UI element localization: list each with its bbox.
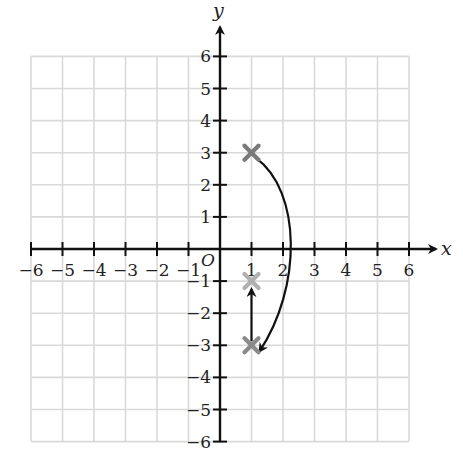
x-axis-label: x — [441, 237, 452, 259]
y-tick-label: 2 — [200, 175, 211, 195]
y-tick-label: −1 — [186, 271, 211, 291]
x-tick-label: 2 — [278, 260, 289, 280]
y-tick-label: −5 — [186, 400, 211, 420]
x-tick-label: −3 — [113, 260, 138, 280]
y-tick-label: −2 — [186, 303, 211, 323]
x-tick-label: −2 — [144, 260, 169, 280]
rotation-arc-arrow — [256, 158, 291, 352]
y-tick-label: −3 — [186, 335, 211, 355]
y-tick-label: 3 — [200, 143, 211, 163]
coordinate-plane: −6−5−4−3−2−1123456654321−1−2−3−4−5−6 x y… — [0, 0, 463, 462]
y-tick-label: 6 — [200, 46, 211, 66]
x-tick-label: 6 — [404, 260, 415, 280]
x-tick-label: 4 — [341, 260, 352, 280]
y-tick-label: 1 — [200, 207, 211, 227]
x-tick-label: −5 — [50, 260, 75, 280]
y-tick-label: 4 — [200, 111, 211, 131]
x-tick-label: −4 — [81, 260, 106, 280]
x-tick-label: 5 — [372, 260, 383, 280]
y-tick-label: −4 — [186, 367, 211, 387]
x-tick-label: 3 — [309, 260, 320, 280]
y-axis-label: y — [212, 0, 224, 21]
origin-label: O — [201, 250, 215, 270]
transformation-arrows — [252, 158, 291, 352]
x-tick-label: −6 — [18, 260, 43, 280]
y-tick-label: −6 — [186, 432, 211, 452]
y-tick-label: 5 — [200, 79, 211, 99]
